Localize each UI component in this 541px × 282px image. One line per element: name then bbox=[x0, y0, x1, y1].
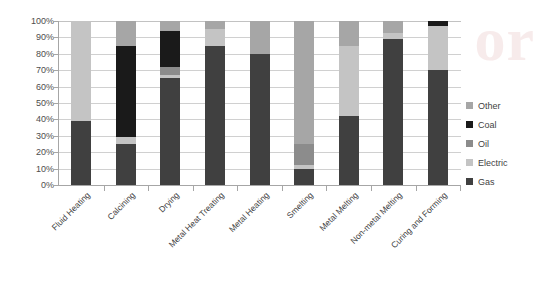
bar-segment-gas[interactable] bbox=[383, 39, 403, 185]
x-axis-category-label: Metal Melting bbox=[317, 190, 360, 233]
legend-label: Gas bbox=[478, 177, 495, 187]
y-axis-tick-mark bbox=[53, 152, 58, 153]
chart-legend: OtherCoalOilElectricGas bbox=[466, 96, 536, 191]
bar-slot bbox=[148, 21, 193, 185]
x-axis-category-label: Drying bbox=[157, 190, 181, 214]
y-axis-tick-label: 50% bbox=[36, 98, 54, 108]
x-axis-tick-mark bbox=[460, 186, 461, 191]
stacked-bar[interactable] bbox=[428, 21, 448, 185]
legend-swatch-icon bbox=[466, 159, 473, 166]
y-axis-tick-mark bbox=[53, 54, 58, 55]
legend-swatch-icon bbox=[466, 102, 473, 109]
legend-swatch-icon bbox=[466, 140, 473, 147]
y-axis-tick-mark bbox=[53, 169, 58, 170]
y-axis-tick-label: 70% bbox=[36, 65, 54, 75]
bar-segment-electric[interactable] bbox=[205, 29, 225, 45]
y-axis-tick-mark bbox=[53, 21, 58, 22]
legend-label: Coal bbox=[478, 120, 497, 130]
bar-slot bbox=[59, 21, 104, 185]
bar-segment-gas[interactable] bbox=[294, 169, 314, 185]
bar-segment-coal[interactable] bbox=[160, 31, 180, 67]
bar-slot bbox=[371, 21, 416, 185]
bar-segment-coal[interactable] bbox=[116, 46, 136, 138]
stacked-bar-chart: or 0%10%20%30%40%50%60%70%80%90%100% Flu… bbox=[0, 0, 541, 282]
legend-item-gas[interactable]: Gas bbox=[466, 172, 536, 191]
bar-segment-electric[interactable] bbox=[71, 21, 91, 121]
y-axis-tick-mark bbox=[53, 87, 58, 88]
bar-slot bbox=[326, 21, 371, 185]
y-axis-tick-label: 10% bbox=[36, 164, 54, 174]
bar-segment-oil[interactable] bbox=[294, 144, 314, 165]
legend-label: Oil bbox=[478, 139, 489, 149]
y-axis-tick-label: 90% bbox=[36, 32, 54, 42]
bar-segment-other[interactable] bbox=[250, 21, 270, 54]
legend-label: Electric bbox=[478, 158, 508, 168]
y-axis-tick-label: 60% bbox=[36, 82, 54, 92]
y-axis-tick-mark bbox=[53, 185, 58, 186]
bar-segment-gas[interactable] bbox=[250, 54, 270, 185]
bar-segment-gas[interactable] bbox=[205, 46, 225, 185]
bar-segment-gas[interactable] bbox=[116, 144, 136, 185]
legend-swatch-icon bbox=[466, 178, 473, 185]
x-axis-labels: Fluid HeatingCalciningDryingMetal Heat T… bbox=[59, 190, 460, 280]
bar-slot bbox=[416, 21, 461, 185]
bar-segment-gas[interactable] bbox=[160, 78, 180, 185]
y-axis-tick-mark bbox=[53, 37, 58, 38]
bar-segment-other[interactable] bbox=[160, 21, 180, 31]
y-axis-labels: 0%10%20%30%40%50%60%70%80%90%100% bbox=[14, 21, 54, 185]
legend-label: Other bbox=[478, 101, 501, 111]
bar-slot bbox=[237, 21, 282, 185]
y-axis-tick-label: 40% bbox=[36, 114, 54, 124]
bar-segment-electric[interactable] bbox=[339, 46, 359, 117]
y-axis-tick-label: 80% bbox=[36, 49, 54, 59]
stacked-bar[interactable] bbox=[383, 21, 403, 185]
x-axis-category-label: Fluid Heating bbox=[50, 190, 92, 232]
y-axis-tick-label: 30% bbox=[36, 131, 54, 141]
legend-item-electric[interactable]: Electric bbox=[466, 153, 536, 172]
background-watermark: or bbox=[474, 4, 535, 75]
bar-segment-other[interactable] bbox=[383, 21, 403, 32]
y-axis-tick-label: 100% bbox=[31, 16, 54, 26]
legend-item-oil[interactable]: Oil bbox=[466, 134, 536, 153]
legend-item-other[interactable]: Other bbox=[466, 96, 536, 115]
bar-segment-electric[interactable] bbox=[428, 26, 448, 70]
bar-segment-gas[interactable] bbox=[339, 116, 359, 185]
stacked-bar[interactable] bbox=[339, 21, 359, 185]
y-axis-tick-mark bbox=[53, 103, 58, 104]
bar-slot bbox=[104, 21, 149, 185]
bar-segment-other[interactable] bbox=[339, 21, 359, 46]
bar-segment-gas[interactable] bbox=[428, 70, 448, 185]
bar-segment-other[interactable] bbox=[294, 21, 314, 144]
x-axis-category-label: Calcining bbox=[105, 190, 137, 222]
x-axis-category-label: Smelting bbox=[285, 190, 315, 220]
legend-item-coal[interactable]: Coal bbox=[466, 115, 536, 134]
legend-swatch-icon bbox=[466, 121, 473, 128]
y-axis-tick-label: 20% bbox=[36, 147, 54, 157]
bar-group bbox=[59, 21, 460, 185]
y-axis-tick-mark bbox=[53, 70, 58, 71]
y-axis-tick-mark bbox=[53, 119, 58, 120]
stacked-bar[interactable] bbox=[294, 21, 314, 185]
bar-slot bbox=[282, 21, 327, 185]
y-axis-tick-mark bbox=[53, 136, 58, 137]
bar-segment-oil[interactable] bbox=[160, 67, 180, 75]
bar-segment-other[interactable] bbox=[205, 21, 225, 29]
stacked-bar[interactable] bbox=[71, 21, 91, 185]
stacked-bar[interactable] bbox=[205, 21, 225, 185]
bar-slot bbox=[193, 21, 238, 185]
stacked-bar[interactable] bbox=[160, 21, 180, 185]
stacked-bar[interactable] bbox=[250, 21, 270, 185]
bar-segment-gas[interactable] bbox=[71, 121, 91, 185]
bar-segment-other[interactable] bbox=[116, 21, 136, 46]
stacked-bar[interactable] bbox=[116, 21, 136, 185]
x-axis-category-label: Metal Heating bbox=[226, 190, 270, 234]
